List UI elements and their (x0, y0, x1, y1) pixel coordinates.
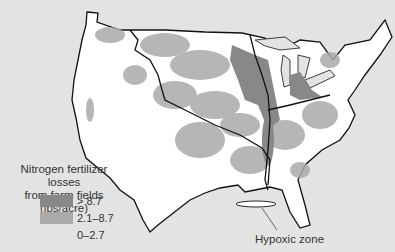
legend-item-high: > 8.7 (40, 194, 102, 208)
legend-title-1: Nitrogen fertilizer losses (4, 163, 124, 189)
hypoxic-leader (262, 208, 277, 230)
legend: Nitrogen fertilizer losses from farm fie… (4, 163, 174, 215)
swatch-high (40, 195, 73, 207)
hypoxic-zone (236, 201, 276, 207)
hypoxic-zone-label: Hypoxic zone (255, 233, 324, 245)
legend-item-low: 0–2.7 (40, 228, 105, 242)
swatch-medium (40, 212, 73, 224)
legend-item-medium: 2.1–8.7 (40, 211, 114, 225)
swatch-low (40, 229, 73, 241)
